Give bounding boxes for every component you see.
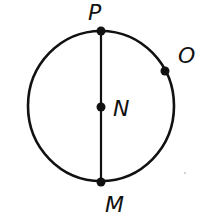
label-p: P — [88, 0, 102, 25]
point-p-dot — [97, 27, 106, 36]
scan-speck — [184, 172, 186, 174]
point-o-dot — [161, 67, 170, 76]
label-n: N — [113, 96, 129, 121]
point-n-dot — [97, 103, 106, 112]
circle-diagram: P O N M — [0, 0, 215, 215]
point-m-dot — [97, 178, 106, 187]
label-o: O — [178, 43, 195, 68]
label-m: M — [105, 192, 124, 215]
